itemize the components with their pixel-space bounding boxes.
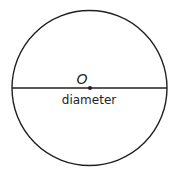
center-label: O	[76, 71, 87, 87]
center-point	[88, 86, 92, 90]
circle-diagram: O diameter	[0, 0, 172, 172]
diameter-label: diameter	[62, 93, 116, 107]
